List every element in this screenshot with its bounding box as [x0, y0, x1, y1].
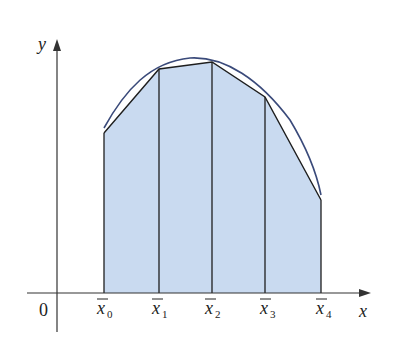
svg-text:x: x [96, 298, 105, 318]
svg-text:x: x [315, 298, 324, 318]
origin-label: 0 [39, 300, 48, 320]
svg-text:3: 3 [270, 308, 276, 320]
partition-labels: x 0 x 1 x 2 x 3 x 4 [96, 298, 332, 320]
svg-text:x: x [259, 298, 268, 318]
svg-text:4: 4 [326, 308, 332, 320]
svg-text:1: 1 [162, 308, 168, 320]
svg-text:x: x [151, 298, 160, 318]
trapezoid-rule-diagram: y x 0 x 0 x 1 x 2 x 3 x 4 [0, 0, 396, 339]
svg-text:x: x [204, 298, 213, 318]
svg-text:0: 0 [107, 308, 113, 320]
partition-label-x3: x 3 [259, 298, 276, 320]
partition-label-x1: x 1 [151, 298, 168, 320]
partition-label-x4: x 4 [315, 298, 332, 320]
svg-text:2: 2 [215, 308, 221, 320]
x-axis-label: x [358, 301, 367, 321]
partition-label-x2: x 2 [204, 298, 221, 320]
x-axis-arrow-icon [359, 289, 371, 297]
y-axis-arrow-icon [53, 39, 61, 51]
partition-label-x0: x 0 [96, 298, 113, 320]
y-axis-label: y [36, 34, 46, 54]
